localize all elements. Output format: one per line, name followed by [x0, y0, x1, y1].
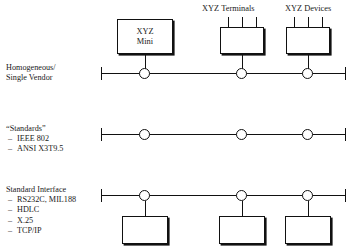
row-title-standards: “Standards” [6, 124, 63, 134]
drop-line-device-2 [242, 201, 243, 216]
drop-line-device-3 [308, 201, 309, 216]
bus-node [139, 190, 150, 201]
generic-device-box [285, 216, 331, 244]
bus-node [236, 68, 247, 79]
xyz-mini-line1: XYZ [136, 27, 153, 36]
row-item-hdlc: HDLC [6, 205, 76, 215]
row-title-homogeneous-line2: Single Vendor [6, 73, 56, 83]
bus-node [236, 129, 247, 140]
row-title-homogeneous: Homogeneous/ [6, 63, 56, 73]
row-item-rs232c: RS232C, MIL188 [6, 195, 76, 205]
row-item-x25: X.25 [6, 216, 76, 226]
row-title-standard-interface: Standard Interface [6, 185, 76, 195]
row-item-ieee-802: IEEE 802 [6, 134, 63, 144]
xyz-mini-box-text: XYZ Mini [118, 27, 172, 47]
drop-line-device-1 [145, 201, 146, 216]
bus-terminator-right [345, 189, 346, 202]
generic-device-box [219, 216, 265, 244]
xyz-devices-label: XYZ Devices [285, 4, 331, 13]
network-diagram: XYZ Terminals XYZ Devices Homogeneous/ S… [0, 0, 360, 251]
row-label-standard-interface: Standard Interface RS232C, MIL188 HDLC X… [6, 185, 76, 236]
xyz-mini-box: XYZ Mini [117, 19, 173, 54]
row-item-ansi-x3t9-5: ANSI X3T9.5 [6, 144, 63, 154]
generic-device-box [122, 216, 168, 244]
xyz-terminals-box [220, 27, 264, 54]
bus-terminator-left [101, 128, 102, 141]
bus-terminator-right [345, 128, 346, 141]
bus-terminator-left [101, 67, 102, 80]
bus-node [302, 129, 313, 140]
xyz-devices-box [286, 27, 330, 54]
bus-node [139, 68, 150, 79]
row-label-homogeneous: Homogeneous/ Single Vendor [6, 63, 56, 83]
bus-node [302, 190, 313, 201]
xyz-terminals-label: XYZ Terminals [202, 4, 255, 13]
row-item-tcp-ip: TCP/IP [6, 226, 76, 236]
xyz-mini-line2: Mini [137, 37, 153, 46]
bus-node [139, 129, 150, 140]
bus-node [236, 190, 247, 201]
bus-node [302, 68, 313, 79]
bus-terminator-left [101, 189, 102, 202]
row-label-standards: “Standards” IEEE 802 ANSI X3T9.5 [6, 124, 63, 155]
bus-terminator-right [345, 67, 346, 80]
